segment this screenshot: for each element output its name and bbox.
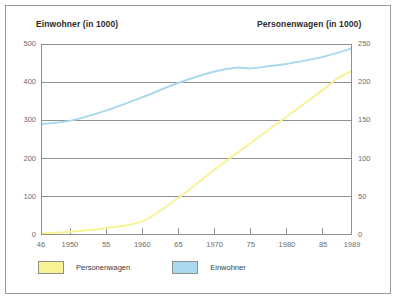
legend-label: Einwohner bbox=[210, 263, 245, 272]
chart-legend: PersonenwagenEinwohner bbox=[38, 261, 288, 274]
x-axis-tick-label: 75 bbox=[234, 240, 268, 249]
legend-swatch-personenwagen bbox=[38, 261, 64, 274]
right-axis-tick-label: 250 bbox=[358, 39, 388, 48]
x-axis-tick-label: 1960 bbox=[125, 240, 159, 249]
series-line-einwohner bbox=[42, 49, 351, 124]
left-axis-tick-label: 400 bbox=[6, 77, 36, 86]
right-axis-tick-label: 150 bbox=[358, 115, 388, 124]
legend-label: Personenwagen bbox=[76, 263, 130, 272]
legend-swatch-einwohner bbox=[172, 261, 198, 274]
right-axis-tick-label: 50 bbox=[358, 192, 388, 201]
legend-entry[interactable]: Einwohner bbox=[172, 261, 245, 274]
x-axis-tick-label: 1980 bbox=[270, 240, 304, 249]
x-axis-tick-label: 65 bbox=[161, 240, 195, 249]
left-axis-tick-label: 300 bbox=[6, 115, 36, 124]
right-axis-title: Personenwagen (in 1000) bbox=[257, 19, 361, 29]
right-axis-tick-label: 100 bbox=[358, 154, 388, 163]
right-axis-tick-label: 0 bbox=[358, 230, 388, 239]
left-axis-tick-label: 500 bbox=[6, 39, 36, 48]
chart-figure: Einwohner (in 1000) Personenwagen (in 10… bbox=[0, 0, 397, 300]
left-axis-tick-label: 0 bbox=[6, 230, 36, 239]
legend-entry[interactable]: Personenwagen bbox=[38, 261, 130, 274]
x-axis-tick-label: 1989 bbox=[335, 240, 369, 249]
x-axis-tick-label: 55 bbox=[89, 240, 123, 249]
series-line-personenwagen bbox=[42, 71, 351, 233]
right-axis-tick-label: 200 bbox=[358, 77, 388, 86]
left-axis-tick-label: 200 bbox=[6, 154, 36, 163]
x-axis-tick-label: 1970 bbox=[198, 240, 232, 249]
x-axis-tick-label: 1950 bbox=[53, 240, 87, 249]
plot-area bbox=[41, 44, 352, 235]
series-curves bbox=[42, 45, 351, 234]
left-axis-tick-label: 100 bbox=[6, 192, 36, 201]
left-axis-title: Einwohner (in 1000) bbox=[36, 19, 118, 29]
